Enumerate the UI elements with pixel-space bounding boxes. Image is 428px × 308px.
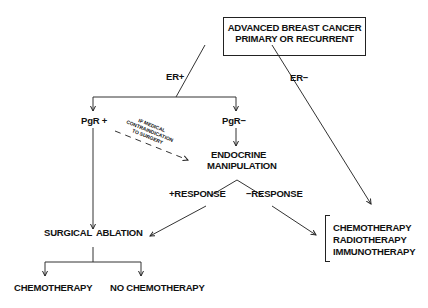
chemotherapy-node: CHEMOTHERAPY (14, 282, 92, 293)
edge-neg-response (272, 206, 316, 235)
surgical-ablation-node: SURGICAL ABLATION (44, 227, 143, 238)
er-pos-label: ER+ (166, 71, 184, 82)
therapies-bracket (325, 215, 330, 262)
therapy-immunotherapy: IMMUNOTHERAPY (333, 246, 415, 257)
root-line1: ADVANCED BREAST CANCER (224, 22, 365, 33)
therapy-chemotherapy: CHEMOTHERAPY (333, 222, 411, 233)
root-line2: PRIMARY OR RECURRENT (224, 33, 365, 44)
neg-response-label: −RESPONSE (246, 188, 303, 199)
pgr-neg-node: PgR− (222, 115, 246, 126)
endocrine-line2: MANIPULATION (207, 160, 277, 171)
pos-response-label: +RESPONSE (169, 188, 226, 199)
no-chemotherapy-node: NO CHEMOTHERAPY (110, 282, 205, 293)
root-node: ADVANCED BREAST CANCER PRIMARY OR RECURR… (223, 17, 366, 56)
er-neg-label: ER− (290, 72, 308, 83)
therapy-radiotherapy: RADIOTHERAPY (333, 234, 407, 245)
pgr-pos-node: PgR + (81, 115, 107, 126)
edge-er-neg (272, 45, 371, 204)
edge-pos-response (150, 206, 206, 236)
endocrine-line1: ENDOCRINE (211, 149, 266, 160)
